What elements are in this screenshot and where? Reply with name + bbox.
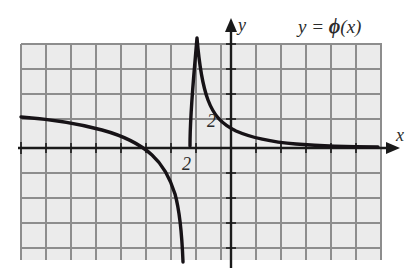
graph-figure: y = ϕ(x) y x 2 2 bbox=[0, 0, 416, 276]
x-axis-label: x bbox=[396, 126, 404, 144]
function-label: y = ϕ(x) bbox=[298, 16, 361, 36]
y-axis-label: y bbox=[238, 16, 246, 34]
function-label-lhs: y = bbox=[298, 16, 329, 37]
curve-layer bbox=[0, 0, 416, 276]
x-axis-tick-label-2: 2 bbox=[182, 155, 191, 173]
curve-branch-upper-right bbox=[190, 38, 378, 147]
function-label-arg: (x) bbox=[340, 16, 361, 37]
curve-branch-lower-left bbox=[21, 117, 183, 262]
y-axis-tick-label-2: 2 bbox=[207, 112, 216, 130]
phi-symbol: ϕ bbox=[329, 15, 341, 37]
